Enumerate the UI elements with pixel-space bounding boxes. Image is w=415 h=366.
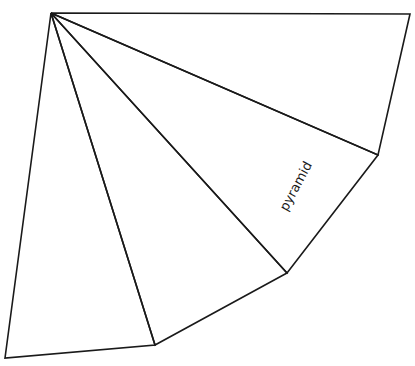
pyramid-label: pyramid: [276, 159, 315, 214]
face-3: [51, 13, 287, 345]
face-1: [51, 13, 410, 155]
face-4: [5, 13, 155, 358]
pyramid-net-diagram: pyramid: [0, 0, 415, 366]
net-drawing: pyramid: [0, 0, 415, 366]
face-2: [51, 13, 378, 273]
faces-group: [5, 13, 410, 358]
